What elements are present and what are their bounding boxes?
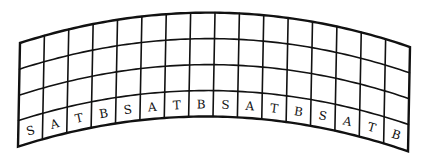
curved-grid-diagram: SATBSATBSATBSATB [0,0,432,161]
column-line [311,22,313,126]
column-line [116,20,118,124]
column-line [140,16,142,120]
column-line [189,13,191,117]
voice-label: B [390,127,403,143]
column-line [384,39,386,143]
voice-label: S [24,123,36,139]
voice-label: B [197,98,206,112]
voice-label: A [244,99,255,114]
voice-label: S [123,102,133,117]
column-line [262,15,264,119]
voice-label: A [340,113,353,129]
column-line [286,18,288,122]
column-line [91,24,93,128]
column-line [164,14,166,118]
column-line [67,29,69,133]
voice-label: B [293,104,304,119]
voice-label: T [74,111,85,126]
column-line [359,32,361,136]
voice-label: S [318,108,329,123]
voice-label: A [146,100,157,115]
column-line [335,27,337,131]
column-line [42,36,44,140]
column-line [237,13,239,117]
voice-label: B [98,106,109,121]
voice-label: S [221,98,230,112]
voice-label: T [172,98,181,112]
voice-label: A [48,116,61,132]
voice-label: T [366,120,378,136]
voice-label: T [269,101,279,116]
column-line [213,13,215,117]
